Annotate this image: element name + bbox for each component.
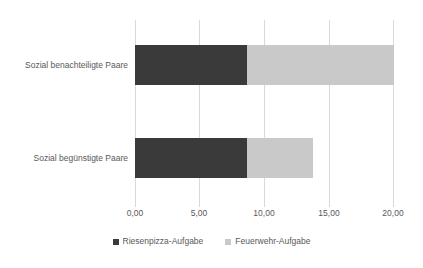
legend-swatch-icon	[113, 239, 119, 245]
bar-segment-feuerwehr	[247, 138, 313, 178]
x-tick-mark	[135, 203, 136, 207]
x-tick-label: 15,00	[318, 208, 339, 219]
x-tick-mark	[329, 203, 330, 207]
x-axis: 0,00 5,00 10,00 15,00 20,00	[135, 203, 394, 221]
legend-swatch-icon	[225, 239, 231, 245]
legend-label: Riesenpizza-Aufgabe	[123, 236, 204, 247]
category-label: Sozial benachteiligte Paare	[8, 60, 128, 71]
bar-segment-feuerwehr	[247, 45, 394, 85]
x-tick-label: 5,00	[191, 208, 208, 219]
bar-row	[135, 45, 394, 85]
legend-item-riesenpizza[interactable]: Riesenpizza-Aufgabe	[113, 236, 204, 247]
bar-row	[135, 138, 313, 178]
x-tick-mark	[393, 203, 394, 207]
category-label: Sozial begünstigte Paare	[8, 153, 128, 164]
legend-label: Feuerwehr-Aufgabe	[235, 236, 310, 247]
x-tick-label: 0,00	[127, 208, 144, 219]
x-tick-label: 10,00	[253, 208, 274, 219]
chart-legend: Riesenpizza-Aufgabe Feuerwehr-Aufgabe	[0, 236, 423, 247]
legend-item-feuerwehr[interactable]: Feuerwehr-Aufgabe	[225, 236, 310, 247]
bar-segment-riesenpizza	[135, 45, 247, 85]
x-tick-mark	[199, 203, 200, 207]
bar-chart: Sozial benachteiligte Paare Sozial begün…	[0, 0, 423, 268]
bar-segment-riesenpizza	[135, 138, 247, 178]
x-tick-mark	[264, 203, 265, 207]
x-tick-label: 20,00	[382, 208, 403, 219]
plot-area	[135, 20, 394, 203]
